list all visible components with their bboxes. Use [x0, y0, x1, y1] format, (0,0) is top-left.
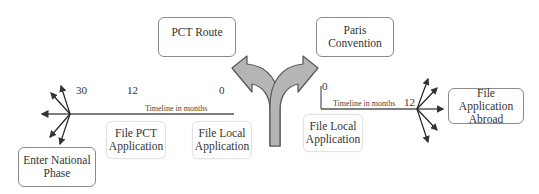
paris-convention-line2: Convention	[328, 37, 382, 50]
file-local-left-line2: Application	[195, 140, 249, 153]
file-abroad-line2: Abroad	[469, 113, 504, 126]
file-pct-line2: Application	[109, 140, 163, 153]
right-tick-12: 12	[404, 96, 415, 108]
left-timeline-label: Timeline in months	[145, 104, 207, 113]
paris-convention-box: Paris Convention	[316, 17, 394, 57]
pct-route-box: PCT Route	[158, 17, 236, 57]
file-local-right-line1: File Local	[310, 120, 357, 133]
pct-route-label: PCT Route	[171, 26, 222, 39]
enter-national-line1: Enter National	[23, 154, 90, 167]
file-local-left-line1: File Local	[199, 127, 246, 140]
right-burst-arrows	[417, 79, 437, 142]
tick-12: 12	[127, 84, 138, 96]
file-abroad-line1: File Application	[449, 87, 523, 113]
tick-30: 30	[76, 84, 87, 96]
file-local-application-right-box: File Local Application	[303, 114, 363, 152]
file-pct-line1: File PCT	[115, 127, 157, 140]
file-pct-application-box: File PCT Application	[106, 121, 166, 159]
tick-0: 0	[219, 84, 225, 96]
file-local-application-left-box: File Local Application	[192, 121, 252, 159]
enter-national-phase-box: Enter National Phase	[18, 147, 96, 187]
left-burst-arrows	[50, 86, 70, 144]
file-application-abroad-box: File Application Abroad	[448, 88, 524, 124]
right-tick-0: 0	[322, 80, 328, 92]
enter-national-line2: Phase	[44, 167, 71, 180]
paris-convention-line1: Paris	[344, 24, 367, 37]
file-local-right-line2: Application	[306, 133, 360, 146]
right-timeline-label: Timeline in months	[333, 99, 395, 108]
